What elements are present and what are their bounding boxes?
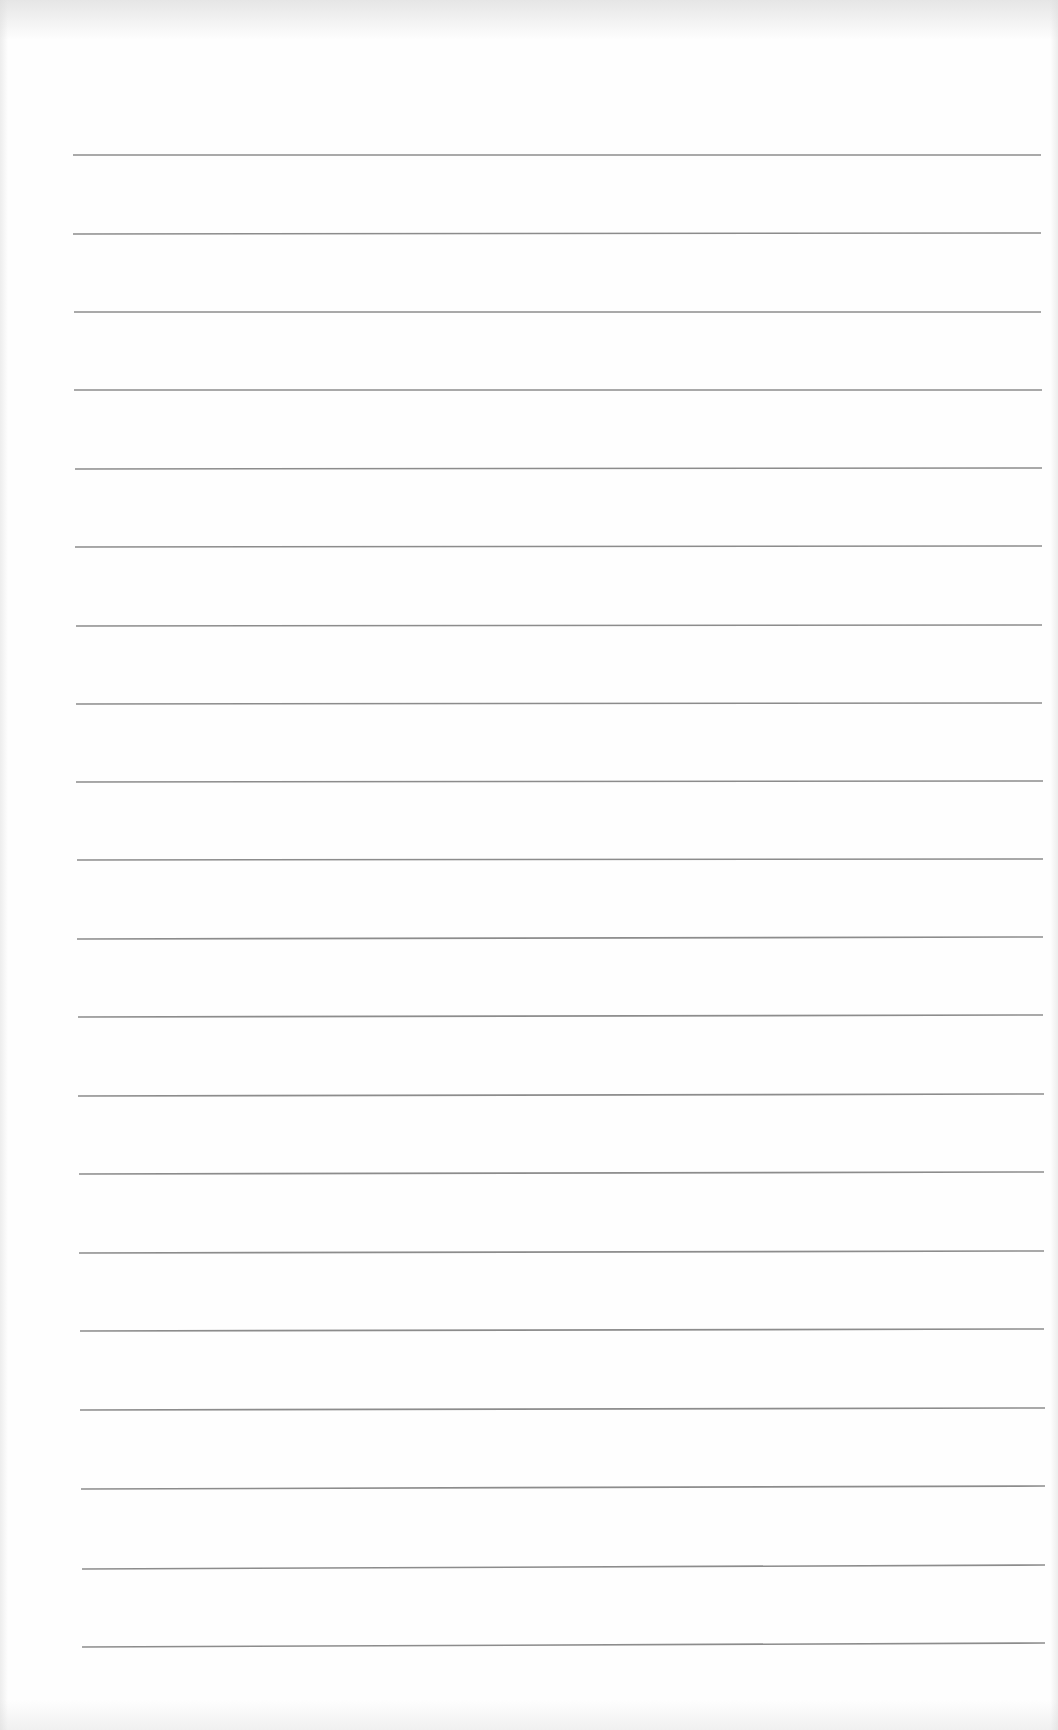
ruled-line	[76, 703, 1042, 704]
ruled-line	[79, 1251, 1044, 1253]
ruled-line	[76, 625, 1042, 626]
ruled-line	[82, 1643, 1045, 1647]
ruled-paper-sheet	[0, 0, 1058, 1730]
ruled-line	[77, 937, 1043, 939]
ruled-line	[79, 1172, 1044, 1174]
ruled-lines	[0, 0, 1058, 1730]
ruled-line	[76, 781, 1043, 782]
ruled-line	[77, 859, 1043, 860]
ruled-line	[73, 233, 1041, 234]
ruled-line	[78, 1015, 1043, 1017]
ruled-line	[78, 1094, 1044, 1096]
ruled-line	[80, 1329, 1044, 1331]
ruled-line	[81, 1486, 1045, 1489]
ruled-line	[75, 546, 1042, 547]
ruled-line	[82, 1565, 1045, 1569]
ruled-line	[75, 468, 1042, 469]
ruled-line	[80, 1408, 1045, 1410]
